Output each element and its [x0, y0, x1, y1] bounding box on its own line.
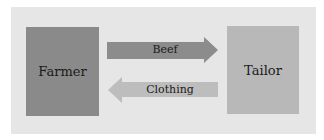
beef-label: Beef: [130, 43, 200, 56]
clothing-label: Clothing: [130, 83, 210, 96]
arrows: [0, 0, 324, 140]
